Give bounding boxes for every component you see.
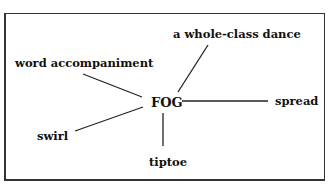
edge-whole-class-dance xyxy=(178,45,208,92)
edge-word-accompaniment xyxy=(83,74,142,97)
node-spread: spread xyxy=(275,96,318,108)
edge-swirl xyxy=(75,107,143,131)
node-whole-class-dance: a whole-class dance xyxy=(173,29,301,41)
node-swirl: swirl xyxy=(37,131,68,143)
node-word-accompaniment: word accompaniment xyxy=(15,58,153,70)
center-node-fog: FOG xyxy=(151,96,183,109)
node-tiptoe: tiptoe xyxy=(149,157,187,169)
